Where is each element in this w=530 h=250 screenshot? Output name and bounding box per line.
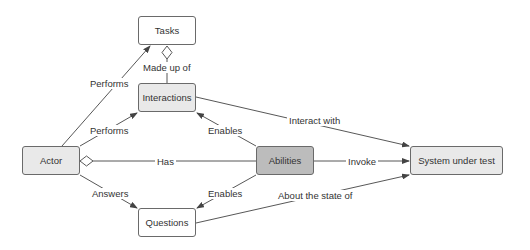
edge-label-enables-questions: Enables — [206, 188, 244, 199]
node-system-label: System under test — [418, 155, 495, 166]
edge-label-actor-interactions: Performs — [88, 125, 131, 136]
edge-label-has: Has — [155, 156, 176, 167]
node-tasks-label: Tasks — [155, 25, 179, 36]
aggregation-diamond-icon — [80, 156, 93, 166]
edge-label-about-the-state-of: About the state of — [276, 190, 354, 201]
node-interactions[interactable]: Interactions — [138, 83, 196, 112]
edge-label-answers: Answers — [90, 188, 130, 199]
edge-label-interact-with: Interact with — [287, 115, 342, 126]
node-abilities-label: Abilities — [269, 155, 302, 166]
node-tasks[interactable]: Tasks — [138, 16, 196, 45]
edge-label-invoke: Invoke — [346, 156, 378, 167]
node-actor-label: Actor — [40, 155, 62, 166]
node-questions[interactable]: Questions — [138, 208, 196, 237]
node-abilities[interactable]: Abilities — [256, 146, 314, 175]
node-questions-label: Questions — [146, 217, 189, 228]
node-actor[interactable]: Actor — [22, 146, 80, 175]
diagram-canvas: Tasks Interactions Actor Abilities Syste… — [0, 0, 530, 250]
aggregation-diamond-icon — [162, 46, 172, 59]
node-interactions-label: Interactions — [142, 92, 191, 103]
edges-layer — [0, 0, 530, 250]
edge-label-enables-interactions: Enables — [206, 125, 244, 136]
node-system-under-test[interactable]: System under test — [410, 146, 503, 175]
edge-label-made-up-of: Made up of — [141, 62, 193, 73]
edge-label-actor-tasks: Performs — [88, 78, 131, 89]
